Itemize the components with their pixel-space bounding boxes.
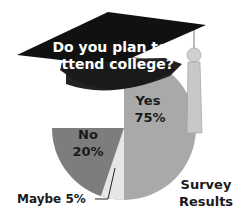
pie-chart: Do you plan to attend college? Yes 75% N… [0,0,236,218]
label-yes-pct: 75% [134,110,165,125]
chart-title-line1: Do you plan to [52,39,167,55]
caption-line2: Results [179,194,233,209]
caption-line1: Survey [181,177,232,192]
chart-title-line2: attend college? [52,56,174,72]
tassel-icon [187,25,202,133]
label-maybe: Maybe 5% [17,192,86,206]
label-no-pct: 20% [72,144,103,159]
label-yes: Yes [135,93,161,108]
label-no: No [78,127,98,142]
